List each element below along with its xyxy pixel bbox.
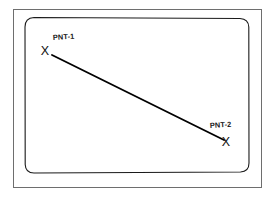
pnt-1-label: PNT-1 (53, 32, 75, 42)
pnt-2-label: PNT-2 (210, 120, 232, 130)
pnt-2-marker: X (222, 135, 231, 149)
technical-line-drawing: X PNT-1 X PNT-2 (0, 0, 275, 198)
diagram-canvas: X PNT-1 X PNT-2 (0, 0, 275, 198)
pnt-1-marker: X (41, 44, 50, 58)
